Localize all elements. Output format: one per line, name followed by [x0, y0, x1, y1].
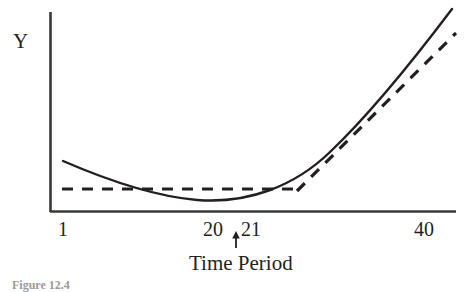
actual-data-curve [63, 9, 452, 201]
x-tick-label-21: 21 [241, 219, 261, 239]
y-axis-label: Y [13, 31, 28, 52]
fitted-line-rising-segment [297, 33, 456, 191]
x-tick-label-20: 20 [203, 219, 223, 239]
x-tick-label-1: 1 [58, 219, 68, 239]
intervention-arrow-icon [232, 231, 240, 248]
x-tick-label-40: 40 [414, 219, 434, 239]
figure-caption: Figure 12.4 [12, 279, 70, 291]
x-axis-title: Time Period [189, 253, 293, 274]
